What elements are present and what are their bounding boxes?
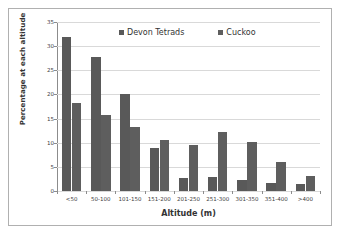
bar-group <box>57 22 86 191</box>
x-axis-tick-label: 251-300 <box>206 196 229 202</box>
bar <box>296 184 306 191</box>
x-axis-tick-mark <box>291 191 292 194</box>
x-axis-tick-label: 50-100 <box>91 196 110 202</box>
x-axis-tick-label: 201-250 <box>177 196 200 202</box>
bar <box>247 142 257 191</box>
bar <box>179 178 189 191</box>
x-axis-tick-label: 351-400 <box>265 196 288 202</box>
bar <box>150 148 160 191</box>
chart-container: Percentage at each altitude 051015202530… <box>8 8 332 226</box>
bar <box>72 103 82 191</box>
x-axis-tick-label: <50 <box>66 196 78 202</box>
plot-area <box>57 22 320 191</box>
y-axis-tick-label: 10 <box>47 140 54 146</box>
bar-group <box>174 22 203 191</box>
bar-group <box>203 22 232 191</box>
chart-legend: Devon TetradsCuckoo <box>119 28 256 37</box>
x-axis-tick-mark <box>57 191 58 194</box>
x-axis-tick-mark <box>174 191 175 194</box>
bar <box>91 57 101 191</box>
y-axis-tick-label: 25 <box>47 67 54 73</box>
x-axis-tick-label: 151-200 <box>148 196 171 202</box>
bar <box>266 183 276 191</box>
legend-entry: Devon Tetrads <box>119 28 184 37</box>
x-axis-tick-mark <box>86 191 87 194</box>
bar <box>130 127 140 191</box>
bar-group <box>86 22 115 191</box>
gridline <box>57 191 320 192</box>
x-axis-tick-mark <box>115 191 116 194</box>
bar <box>160 140 170 191</box>
x-axis-tick-mark <box>262 191 263 194</box>
bar-group <box>291 22 320 191</box>
bar <box>218 132 228 191</box>
bar-group <box>232 22 261 191</box>
x-axis-tick-mark <box>320 191 321 194</box>
y-axis-title: Percentage at each altitude <box>19 0 27 149</box>
x-axis-title: Altitude (m) <box>57 209 320 218</box>
x-axis-tick-label: 301-350 <box>235 196 258 202</box>
bar <box>189 145 199 191</box>
x-axis-tick-mark <box>203 191 204 194</box>
bar-group <box>145 22 174 191</box>
bar <box>120 94 130 191</box>
y-axis-tick-label: 30 <box>47 43 54 49</box>
legend-entry: Cuckoo <box>218 28 255 37</box>
bar <box>276 162 286 191</box>
y-axis-tick-label: 15 <box>47 116 54 122</box>
legend-label: Cuckoo <box>226 28 255 37</box>
legend-swatch-icon <box>218 30 223 35</box>
legend-swatch-icon <box>119 30 124 35</box>
bar <box>62 37 72 192</box>
bar-group <box>115 22 144 191</box>
bar <box>306 176 316 191</box>
legend-label: Devon Tetrads <box>127 28 184 37</box>
x-axis-tick-mark <box>232 191 233 194</box>
bar <box>101 115 111 191</box>
x-axis-tick-label: >400 <box>298 196 313 202</box>
x-axis-tick-mark <box>145 191 146 194</box>
y-axis-tick-labels: 05101520253035 <box>29 9 54 227</box>
bar <box>208 177 218 191</box>
y-axis-tick-label: 20 <box>47 91 54 97</box>
bar <box>237 180 247 191</box>
y-axis-tick-label: 35 <box>47 19 54 25</box>
x-axis-tick-label: 101-150 <box>119 196 142 202</box>
bar-group <box>262 22 291 191</box>
